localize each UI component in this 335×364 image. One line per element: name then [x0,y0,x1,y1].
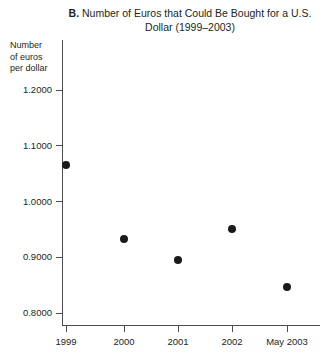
x-axis-tick-label: May 2003 [252,336,322,347]
x-axis-tick [124,325,125,332]
y-axis-title: Number of euros per dollar [10,40,58,75]
y-axis-title-line-1: Number [10,40,58,52]
chart-title-text: Number of Euros that Could Be Bought for… [79,7,311,33]
y-axis-tick [56,257,63,258]
x-axis-tick [66,325,67,332]
y-axis-tick-label: 0.9000 [0,252,52,262]
y-axis-tick [56,90,63,91]
x-axis-tick [287,325,288,332]
y-axis-tick [56,313,63,314]
y-axis-title-line-2: of euros [10,52,58,64]
x-axis-tick [178,325,179,332]
data-point [62,161,70,169]
y-axis-tick-label: 0.8000 [0,308,52,318]
data-point [228,225,236,233]
data-point [120,235,128,243]
x-axis-tick [232,325,233,332]
chart-title: B. Number of Euros that Could Be Bought … [56,6,324,34]
y-axis-line [62,40,63,326]
y-axis-tick-label: 1.1000 [0,141,52,151]
data-point [283,283,291,291]
x-axis-line [62,325,320,326]
y-axis-title-line-3: per dollar [10,63,58,75]
y-axis-tick [56,201,63,202]
chart-figure: B. Number of Euros that Could Be Bought … [0,0,335,364]
y-axis-tick-label: 1.2000 [0,85,52,95]
y-axis-tick-label: 1.0000 [0,197,52,207]
y-axis-tick [56,145,63,146]
panel-letter: B. [69,7,80,19]
data-point [174,256,182,264]
